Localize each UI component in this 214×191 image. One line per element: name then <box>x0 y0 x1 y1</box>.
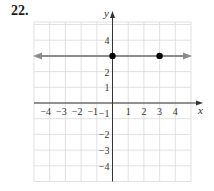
y-axis-arrow-icon <box>110 11 115 18</box>
x-tick-label: 3 <box>157 106 162 117</box>
data-point <box>156 53 162 59</box>
x-tick-label: 4 <box>173 106 178 117</box>
x-axis-label: x <box>197 104 203 116</box>
y-tick-label: −4 <box>99 161 110 172</box>
x-tick-label: 1 <box>126 106 131 117</box>
y-axis-label: y <box>103 7 109 19</box>
y-tick-label: 4 <box>105 35 110 46</box>
y-tick-label: −1 <box>99 108 110 119</box>
x-tick-label: −4 <box>40 106 51 117</box>
x-tick-label: −1 <box>87 106 98 117</box>
y-tick-label: −3 <box>99 145 110 156</box>
x-tick-label: −2 <box>72 106 83 117</box>
coordinate-plane: yx−4−3−2−11234421−1−2−3−4 <box>0 0 214 191</box>
x-tick-label: 2 <box>141 106 146 117</box>
y-tick-label: 1 <box>105 82 110 93</box>
y-tick-label: −2 <box>99 129 110 140</box>
y-tick-label: 2 <box>105 67 110 78</box>
data-point <box>109 53 115 59</box>
x-tick-label: −3 <box>56 106 67 117</box>
